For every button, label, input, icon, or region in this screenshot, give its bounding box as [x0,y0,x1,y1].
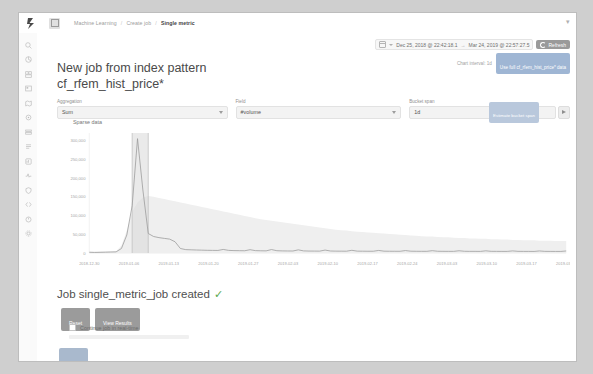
field-select[interactable]: #volume [236,106,402,119]
calendar-icon [379,41,386,48]
elastic-logo-icon[interactable] [23,13,39,33]
svg-text:2019-01-27: 2019-01-27 [238,261,259,266]
svg-text:2019-02-17: 2019-02-17 [357,261,378,266]
sidebar-item-apm[interactable] [19,154,37,169]
secondary-option-placeholder [69,335,189,339]
aggregation-group: Aggregation Sum [57,99,228,119]
sidebar-rail [19,33,38,361]
svg-text:2019-03-17: 2019-03-17 [516,261,537,266]
metric-chart[interactable]: 050,000100,000150,000200,000250,000300,0… [57,129,570,269]
sidebar-item-monitoring[interactable] [19,212,37,227]
check-icon: ✓ [214,289,223,300]
breadcrumb-item-active: Single metric [161,20,195,26]
sidebar-item-dashboard[interactable] [19,67,37,82]
breadcrumb-sep-1: / [155,20,157,26]
chevron-down-icon [219,111,223,114]
sidebar-item-machine-learning[interactable] [19,111,37,126]
chart-interval-label: Chart interval: 1d [457,61,492,66]
field-group: Field #volume [236,99,402,119]
bucket-span-input[interactable]: 1d Estimate bucket span [409,106,556,119]
svg-text:2019-02-10: 2019-02-10 [318,261,339,266]
svg-text:100,000: 100,000 [70,213,86,218]
sparse-data-annotation: Sparse data [73,119,102,125]
breadcrumb: Machine Learning / Create job / Single m… [74,20,195,26]
svg-text:2019-02-03: 2019-02-03 [278,261,299,266]
svg-text:2018-12-30: 2018-12-30 [79,261,100,266]
time-range-control[interactable]: Dec 25, 2018 @ 22:42:18.1 → Mar 24, 2019… [375,39,533,50]
time-picker: Dec 25, 2018 @ 22:42:18.1 → Mar 24, 2019… [375,39,570,50]
time-range-start[interactable]: Dec 25, 2018 @ 22:42:18.1 [396,42,457,48]
breadcrumb-item-1[interactable]: Create job [126,20,151,26]
bucket-span-group: Bucket span 1d Estimate bucket span [409,99,570,119]
aggregation-select[interactable]: Sum [57,106,228,119]
svg-text:2019-03-24: 2019-03-24 [556,261,570,266]
chevron-down-icon [389,44,393,46]
page-title-line2: cf_rfem_hist_price* [57,77,206,93]
aggregation-value: Sum [62,109,73,115]
footer-divider [37,361,576,362]
sidebar-item-management[interactable] [19,227,37,242]
sidebar-item-canvas[interactable] [19,82,37,97]
svg-text:2019-01-06: 2019-01-06 [119,261,140,266]
svg-text:2019-01-13: 2019-01-13 [159,261,180,266]
play-button[interactable] [558,106,570,119]
metric-chart-container: Sparse data 050,000100,000150,000200,000… [57,119,570,279]
svg-text:2019-02-24: 2019-02-24 [397,261,418,266]
sidebar-item-infrastructure[interactable] [19,125,37,140]
field-value: #volume [241,109,261,115]
chart-interval-row: Chart interval: 1d Use full cf_rfem_hist… [457,53,570,74]
job-created-status: Job single_metric_job created ✓ [57,288,223,300]
aggregation-label: Aggregation [57,99,228,104]
sidebar-item-visualize[interactable] [19,53,37,68]
svg-text:150,000: 150,000 [70,194,86,199]
svg-text:2019-03-10: 2019-03-10 [477,261,498,266]
sidebar-item-dev-tools[interactable] [19,198,37,213]
time-range-end[interactable]: Mar 24, 2019 @ 22:57:27.5 [469,42,530,48]
page-title-line1: New job from index pattern [57,61,206,77]
field-label: Field [236,99,402,104]
refresh-label: Refresh [548,42,566,48]
play-icon [562,110,566,114]
sidebar-item-maps[interactable] [19,96,37,111]
apply-button[interactable]: Apply [59,348,88,362]
job-created-text: Job single_metric_job created [57,288,210,300]
svg-text:0: 0 [83,250,86,255]
refresh-button[interactable]: Refresh [536,40,570,50]
svg-text:250,000: 250,000 [70,157,86,162]
refresh-icon [540,42,546,48]
bucket-span-value: 1d [414,109,420,115]
sidebar-item-logs[interactable] [19,140,37,155]
page-title: New job from index pattern cf_rfem_hist_… [57,61,206,92]
realtime-label: Continue job in real-time [80,325,138,331]
sidebar-item-uptime[interactable] [19,169,37,184]
page-content: Dec 25, 2018 @ 22:42:18.1 → Mar 24, 2019… [37,33,576,361]
svg-text:50,000: 50,000 [73,232,86,237]
sidebar-item-discover[interactable] [19,38,37,53]
svg-text:200,000: 200,000 [70,175,86,180]
checkbox-icon[interactable] [69,324,76,331]
estimate-bucket-span-label: Estimate bucket span [493,113,535,118]
chevron-down-icon [392,111,396,114]
ml-app-icon[interactable] [49,18,60,29]
realtime-option[interactable]: Continue job in real-time [69,324,138,331]
browser-window: Machine Learning / Create job / Single m… [18,12,577,362]
chevron-collapse-icon[interactable]: ▾ [566,18,570,26]
screenshot-root: Machine Learning / Create job / Single m… [0,0,593,374]
use-full-data-button[interactable]: Use full cf_rfem_hist_price* data [496,53,570,74]
use-full-data-label: Use full cf_rfem_hist_price* data [500,65,566,70]
breadcrumb-sep-0: / [121,20,123,26]
time-range-separator: → [461,42,466,48]
svg-text:2019-03-03: 2019-03-03 [437,261,458,266]
svg-text:300,000: 300,000 [70,138,86,143]
top-navigation-bar: Machine Learning / Create job / Single m… [19,13,576,34]
sidebar-item-siem[interactable] [19,183,37,198]
breadcrumb-item-0[interactable]: Machine Learning [74,20,117,26]
job-config-form: Aggregation Sum Field #volume [57,99,570,119]
svg-text:2019-01-20: 2019-01-20 [198,261,219,266]
